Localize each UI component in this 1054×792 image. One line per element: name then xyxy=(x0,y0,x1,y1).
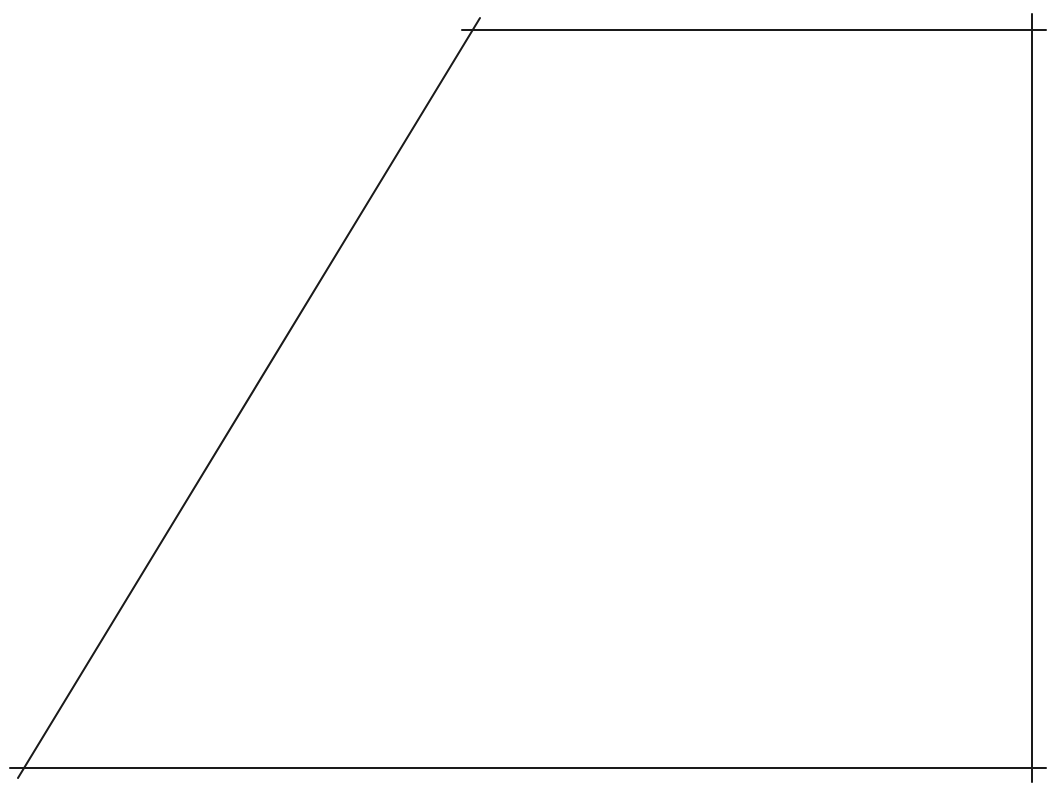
slanted-left-edge-line xyxy=(18,18,480,778)
trapezoid-diagram xyxy=(0,0,1054,792)
